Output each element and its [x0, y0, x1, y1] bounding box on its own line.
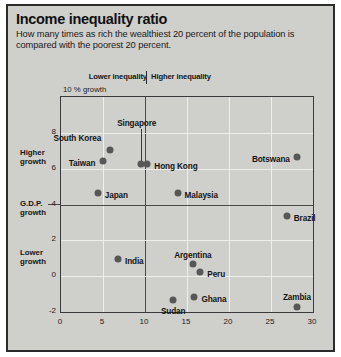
- data-label-argentina: Argentina: [174, 251, 211, 260]
- data-point-south-korea[interactable]: [106, 146, 113, 153]
- y-tick-label-4: 4: [42, 199, 56, 208]
- data-label-india: India: [125, 257, 144, 266]
- data-point-india[interactable]: [114, 256, 121, 263]
- plot-wrapper: 10 % growth Higher growth G.D.P. growth …: [8, 6, 335, 352]
- gridline-y-0: [61, 276, 313, 277]
- data-label-japan: Japan: [105, 191, 128, 200]
- data-point-taiwan[interactable]: [99, 157, 106, 164]
- side-label-lower-growth-line1: Lower: [20, 248, 46, 257]
- data-point-malaysia[interactable]: [174, 189, 181, 196]
- side-label-gdp-growth-line2: growth: [20, 208, 46, 217]
- side-label-lower-growth-line2: growth: [20, 257, 46, 266]
- data-label-ghana: Ghana: [201, 295, 226, 304]
- x-tick-label-0: 0: [50, 317, 70, 326]
- x-tick-label-15: 15: [176, 317, 196, 326]
- y-tick-label--2: -2: [42, 306, 56, 315]
- data-label-brazil: Brazil: [294, 214, 316, 223]
- data-point-sudan[interactable]: [170, 297, 177, 304]
- data-point-ghana[interactable]: [191, 293, 198, 300]
- data-label-botswana: Botswana: [252, 155, 290, 164]
- x-tick-label-5: 5: [92, 317, 112, 326]
- data-label-zambia: Zambia: [283, 293, 311, 302]
- leader-line-singapore: [141, 129, 142, 164]
- y-tick-label-2: 2: [42, 234, 56, 243]
- data-label-taiwan: Taiwan: [69, 159, 96, 168]
- plot-area: [60, 96, 314, 313]
- data-point-zambia[interactable]: [293, 304, 300, 311]
- data-label-singapore: Singapore: [117, 119, 156, 128]
- data-label-peru: Peru: [207, 270, 225, 279]
- data-label-hong-kong: Hong Kong: [154, 162, 197, 171]
- data-label-south-korea: South Korea: [54, 134, 102, 143]
- chart-figure: Income inequality ratio How many times a…: [6, 4, 335, 352]
- side-label-higher-growth-line1: Higher: [20, 148, 46, 157]
- data-point-botswana[interactable]: [293, 153, 300, 160]
- x-tick-label-30: 30: [302, 317, 322, 326]
- data-label-malaysia: Malaysia: [185, 191, 218, 200]
- y-tick-label-6: 6: [42, 163, 56, 172]
- data-label-sudan: Sudan: [161, 307, 186, 316]
- y-tick-label-0: 0: [42, 270, 56, 279]
- side-label-lower-growth: Lower growth: [20, 248, 46, 266]
- data-point-peru[interactable]: [197, 268, 204, 275]
- data-point-argentina[interactable]: [189, 261, 196, 268]
- y-axis-unit-label: 10 % growth: [63, 85, 106, 94]
- x-tick-label-10: 10: [134, 317, 154, 326]
- data-point-brazil[interactable]: [283, 213, 290, 220]
- data-point-japan[interactable]: [94, 189, 101, 196]
- x-tick-label-25: 25: [260, 317, 280, 326]
- gridline-y-4: [61, 205, 313, 206]
- data-point-hong-kong[interactable]: [144, 161, 151, 168]
- gridline-y-2: [61, 240, 313, 241]
- x-tick-label-20: 20: [218, 317, 238, 326]
